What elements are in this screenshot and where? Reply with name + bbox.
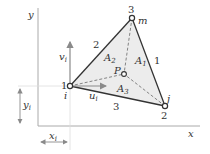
triangle-element-diagram: y x 1 i 2 j 3 m 1 2 3 P A2 A1 A3 vi ui y… <box>0 0 210 154</box>
y-axis-label: y <box>27 9 34 20</box>
edge-1-label: 1 <box>154 55 160 66</box>
vertex-i-name: i <box>64 90 67 101</box>
vertex-m-number: 3 <box>128 4 134 15</box>
yi-label: yi <box>22 99 31 112</box>
v-label: vi <box>59 51 67 64</box>
edge-3-label: 3 <box>113 101 119 112</box>
edge-2-label: 2 <box>93 39 99 50</box>
point-p <box>122 72 127 77</box>
x-axis-label: x <box>188 128 194 139</box>
vertex-j-name: j <box>165 93 170 104</box>
node-i <box>67 83 72 88</box>
diagram-svg: y x 1 i 2 j 3 m 1 2 3 P A2 A1 A3 vi ui y… <box>0 0 210 154</box>
xi-label: xi <box>49 130 57 143</box>
vertex-m-name: m <box>138 15 147 26</box>
node-j <box>162 103 167 108</box>
node-m <box>129 15 134 20</box>
vertex-j-number: 2 <box>161 110 167 121</box>
point-p-label: P <box>113 65 121 76</box>
